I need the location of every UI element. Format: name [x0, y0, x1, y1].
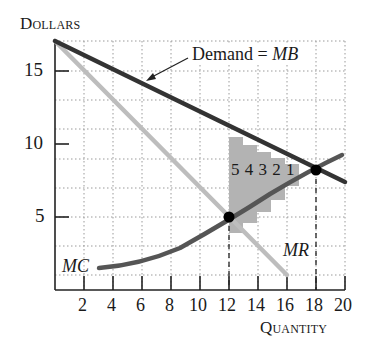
- point-mr-mc: [224, 212, 235, 223]
- step-labels: 5 4 3 2 1: [231, 160, 295, 180]
- x-tick-6: 6: [136, 295, 145, 316]
- demand-label-text: Demand =: [192, 44, 272, 64]
- chart: [0, 0, 373, 343]
- y-tick-5: 5: [35, 205, 45, 227]
- y-tick-10: 10: [24, 132, 43, 154]
- x-tick-12: 12: [218, 295, 236, 316]
- x-tick-20: 20: [334, 295, 352, 316]
- y-axis-label: Dollars: [20, 14, 80, 34]
- x-tick-4: 4: [107, 295, 116, 316]
- y-tick-15: 15: [24, 59, 43, 81]
- point-demand-mc: [311, 165, 322, 176]
- x-tick-8: 8: [165, 295, 174, 316]
- x-axis-label: Quantity: [260, 318, 327, 338]
- x-tick-14: 14: [247, 295, 265, 316]
- x-tick-2: 2: [78, 295, 87, 316]
- x-tick-10: 10: [189, 295, 207, 316]
- x-tick-16: 16: [276, 295, 294, 316]
- x-tick-18: 18: [305, 295, 323, 316]
- mc-label: MC: [62, 256, 89, 277]
- demand-arrow-shaft: [150, 58, 188, 78]
- demand-arrow-head: [146, 73, 156, 81]
- mr-label: MR: [282, 240, 310, 261]
- demand-label-mb: MB: [272, 44, 298, 64]
- demand-label: Demand = MB: [190, 44, 300, 65]
